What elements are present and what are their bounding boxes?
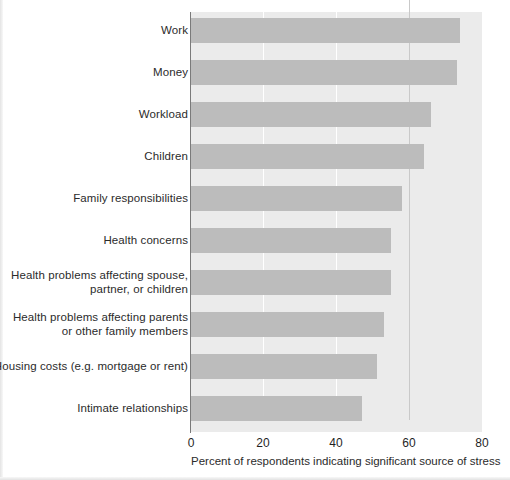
category-label-health-problems-parents: Health problems affecting parents or oth…	[0, 311, 188, 338]
category-label-health-problems-spouse-line2: partner, or children	[0, 283, 188, 297]
horizontal-bar-chart: Work Money Workload Children Family resp…	[0, 0, 510, 480]
bar-money[interactable]	[191, 60, 457, 85]
xtick-20: 20	[243, 436, 283, 450]
bar-family-responsibilities[interactable]	[191, 186, 402, 211]
category-label-intimate-relationships: Intimate relationships	[0, 402, 188, 416]
xtick-40: 40	[316, 436, 356, 450]
category-label-children: Children	[0, 150, 188, 164]
bar-health-concerns[interactable]	[191, 228, 391, 253]
bars-layer	[191, 12, 482, 432]
bar-intimate-relationships[interactable]	[191, 396, 362, 421]
bar-health-problems-spouse[interactable]	[191, 270, 391, 295]
category-label-health-problems-spouse: Health problems affecting spouse, partne…	[0, 269, 188, 296]
bar-work[interactable]	[191, 18, 460, 43]
xtick-0: 0	[171, 436, 211, 450]
category-label-work: Work	[0, 24, 188, 38]
xtick-80: 80	[462, 436, 502, 450]
category-label-housing-costs: Housing costs (e.g. mortgage or rent)	[0, 360, 188, 374]
category-label-health-problems-spouse-line1: Health problems affecting spouse,	[0, 269, 188, 283]
category-label-health-concerns: Health concerns	[0, 234, 188, 248]
category-label-health-problems-parents-line2: or other family members	[0, 325, 188, 339]
bar-health-problems-parents[interactable]	[191, 312, 384, 337]
chart-page: Work Money Workload Children Family resp…	[0, 0, 510, 480]
bar-housing-costs[interactable]	[191, 354, 377, 379]
xtick-60: 60	[389, 436, 429, 450]
bar-workload[interactable]	[191, 102, 431, 127]
category-label-family-responsibilities: Family responsibilities	[0, 192, 188, 206]
category-label-money: Money	[0, 66, 188, 80]
x-axis-title: Percent of respondents indicating signif…	[191, 455, 482, 467]
category-label-health-problems-parents-line1: Health problems affecting parents	[0, 311, 188, 325]
category-label-workload: Workload	[0, 108, 188, 122]
bar-children[interactable]	[191, 144, 424, 169]
